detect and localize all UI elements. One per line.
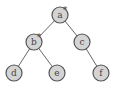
node-c: c bbox=[74, 34, 90, 50]
node-label: d bbox=[11, 68, 17, 78]
marker-star-icon: * bbox=[63, 5, 68, 15]
node-label: e bbox=[54, 68, 59, 78]
marker-star-icon: * bbox=[37, 32, 42, 42]
node-d: d bbox=[6, 65, 22, 81]
node-a: a * bbox=[52, 5, 68, 23]
tree-diagram: a * b * c d e f bbox=[0, 0, 122, 91]
node-f: f bbox=[93, 65, 109, 81]
node-label: c bbox=[79, 37, 84, 47]
node-e: e bbox=[49, 65, 65, 81]
node-b: b * bbox=[26, 32, 42, 50]
